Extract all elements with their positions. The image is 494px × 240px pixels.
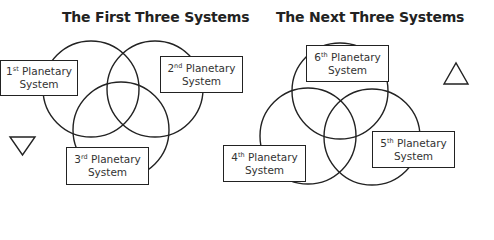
down-triangle-icon [10,137,35,155]
system-4-label: 4th Planetary System [223,145,306,182]
up-triangle-icon [444,63,468,84]
system-1-label: 1st Planetary System [0,60,78,96]
system-6-label: 6th Planetary System [306,45,389,82]
system-2-label: 2nd Planetary System [160,56,243,93]
system-5-label: 5th Planetary System [372,131,455,168]
system-3-label: 3rd Planetary System [66,147,149,185]
